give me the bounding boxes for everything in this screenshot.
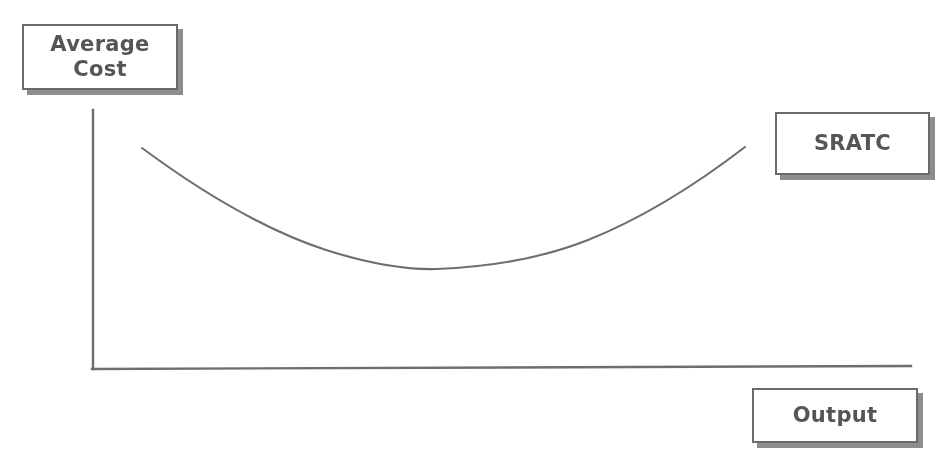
curve-label-box: SRATC xyxy=(775,112,930,175)
x-axis-line xyxy=(92,366,911,369)
x-axis-label-box: Output xyxy=(752,388,918,443)
sratc-curve xyxy=(142,147,745,269)
y-axis-label-box: Average Cost xyxy=(22,24,178,90)
diagram-canvas: Average Cost SRATC Output xyxy=(0,0,952,476)
curve-label-text: SRATC xyxy=(814,131,891,156)
x-axis-label-text: Output xyxy=(793,403,878,428)
y-axis-label-text: Average Cost xyxy=(50,32,149,82)
